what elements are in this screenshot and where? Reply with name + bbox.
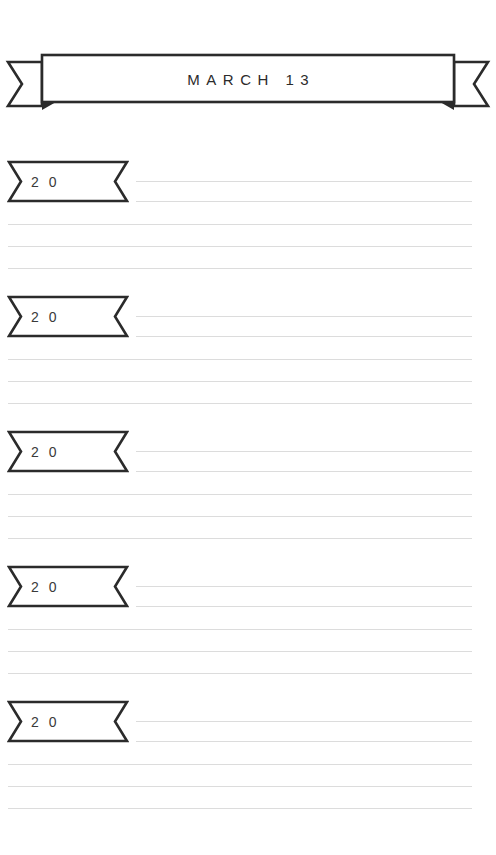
writing-line[interactable] [8, 764, 472, 765]
year-input-field[interactable]: 2 0 [31, 700, 59, 743]
writing-line[interactable] [8, 224, 472, 225]
writing-line[interactable] [136, 181, 472, 182]
writing-line[interactable] [136, 471, 472, 472]
writing-line[interactable] [136, 316, 472, 317]
writing-line[interactable] [8, 381, 472, 382]
writing-line[interactable] [136, 586, 472, 587]
year-input-field[interactable]: 2 0 [31, 160, 59, 203]
writing-line[interactable] [8, 808, 472, 809]
writing-line[interactable] [8, 629, 472, 630]
writing-line[interactable] [136, 721, 472, 722]
journal-page: MARCH 13 2 02 02 02 02 0 [0, 0, 496, 855]
writing-line[interactable] [8, 516, 472, 517]
year-entry-block: 2 0 [0, 295, 496, 430]
writing-line[interactable] [136, 606, 472, 607]
year-entry-block: 2 0 [0, 430, 496, 565]
writing-line[interactable] [8, 246, 472, 247]
writing-line[interactable] [8, 673, 472, 674]
writing-line[interactable] [136, 451, 472, 452]
writing-line[interactable] [8, 651, 472, 652]
writing-line[interactable] [8, 494, 472, 495]
writing-line[interactable] [8, 268, 472, 269]
year-input-field[interactable]: 2 0 [31, 295, 59, 338]
writing-line[interactable] [136, 741, 472, 742]
year-input-field[interactable]: 2 0 [31, 565, 59, 608]
year-entry-block: 2 0 [0, 565, 496, 700]
year-input-field[interactable]: 2 0 [31, 430, 59, 473]
writing-line[interactable] [136, 201, 472, 202]
page-title: MARCH 13 [42, 55, 454, 103]
writing-line[interactable] [8, 538, 472, 539]
writing-line[interactable] [8, 403, 472, 404]
writing-line[interactable] [8, 786, 472, 787]
ribbon-tag-icon [7, 565, 129, 608]
writing-line[interactable] [8, 359, 472, 360]
ribbon-tag-icon [7, 160, 129, 203]
writing-line[interactable] [136, 336, 472, 337]
ribbon-tag-icon [7, 700, 129, 743]
year-entry-block: 2 0 [0, 700, 496, 835]
year-entry-block: 2 0 [0, 160, 496, 295]
ribbon-tag-icon [7, 295, 129, 338]
ribbon-tag-icon [7, 430, 129, 473]
